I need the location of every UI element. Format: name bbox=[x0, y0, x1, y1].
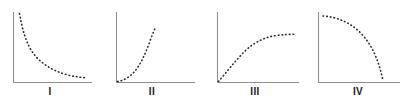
panel-2-plot bbox=[102, 0, 202, 86]
panel-4: IV bbox=[308, 0, 408, 106]
panel-2-label: II bbox=[102, 86, 202, 98]
panel-3-curve bbox=[219, 34, 296, 81]
panel-1: I bbox=[0, 0, 100, 106]
panel-4-plot bbox=[308, 0, 408, 86]
panel-3-label: III bbox=[204, 86, 306, 98]
panel-3-plot bbox=[204, 0, 306, 86]
panel-2-curve bbox=[118, 27, 157, 82]
panel-4-label: IV bbox=[308, 86, 408, 98]
panel-4-curve bbox=[323, 16, 383, 81]
panel-1-plot bbox=[0, 0, 100, 86]
panel-2: II bbox=[102, 0, 202, 106]
panel-1-label: I bbox=[0, 86, 100, 98]
panel-1-curve bbox=[20, 14, 88, 78]
panel-3: III bbox=[204, 0, 306, 106]
curve-shapes-figure: I II III IV bbox=[0, 0, 408, 106]
